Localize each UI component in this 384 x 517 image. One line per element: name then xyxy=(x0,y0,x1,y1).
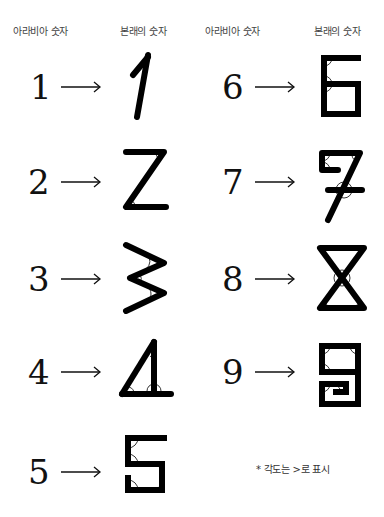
original-glyph-1 xyxy=(120,50,160,125)
arrow-icon xyxy=(60,80,102,94)
original-glyph-6 xyxy=(316,50,366,122)
header-left-arabic: 아라비아 숫자 xyxy=(13,23,68,38)
arabic-numeral-4: 4 xyxy=(28,355,50,389)
original-glyph-7 xyxy=(314,145,370,227)
angle-footnote: * 각도는 >로 표시 xyxy=(256,461,330,476)
arabic-numeral-2: 2 xyxy=(28,165,50,199)
arabic-numeral-3: 3 xyxy=(28,262,50,296)
arrow-icon xyxy=(254,272,296,286)
original-glyph-9 xyxy=(314,338,366,412)
original-glyph-3 xyxy=(118,238,174,318)
original-glyph-2 xyxy=(118,145,174,215)
arrow-icon xyxy=(254,80,296,94)
original-glyph-4 xyxy=(116,336,176,402)
arabic-numeral-6: 6 xyxy=(222,70,244,104)
arrow-icon xyxy=(60,175,102,189)
arrow-icon xyxy=(254,175,296,189)
arabic-numeral-7: 7 xyxy=(222,165,244,199)
arabic-numeral-8: 8 xyxy=(222,262,244,296)
arabic-numeral-5: 5 xyxy=(28,455,50,489)
arrow-icon xyxy=(60,365,102,379)
header-right-arabic: 아라비아 숫자 xyxy=(205,23,260,38)
arrow-icon xyxy=(60,465,102,479)
original-glyph-5 xyxy=(118,430,172,500)
arabic-numeral-1: 1 xyxy=(30,70,52,104)
header-left-original: 본래의 숫자 xyxy=(120,23,166,38)
arabic-numeral-9: 9 xyxy=(222,355,244,389)
arrow-icon xyxy=(60,272,102,286)
original-glyph-8 xyxy=(312,240,372,316)
arrow-icon xyxy=(254,365,296,379)
header-right-original: 본래의 숫자 xyxy=(314,23,360,38)
